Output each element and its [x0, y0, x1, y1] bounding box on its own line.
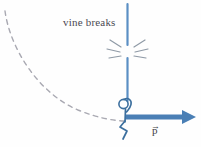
stick-figure-legs — [120, 121, 127, 139]
break-mark-right-lower — [134, 56, 146, 58]
momentum-vector-label: → p — [152, 124, 158, 136]
momentum-arrow-head — [182, 110, 196, 124]
physics-diagram-canvas: vine breaks → p — [0, 0, 201, 147]
break-mark-right-middle — [135, 49, 148, 52]
vector-arrow-accent: → — [151, 122, 160, 131]
stick-figure-head — [119, 99, 128, 108]
break-mark-right-upper — [134, 40, 145, 47]
break-mark-left-lower — [109, 56, 121, 58]
momentum-symbol-stack: → p — [152, 125, 158, 136]
break-mark-left-upper — [110, 40, 121, 47]
stick-figure-torso — [125, 109, 126, 122]
break-mark-left-middle — [107, 49, 120, 52]
vine-breaks-label: vine breaks — [63, 16, 116, 28]
